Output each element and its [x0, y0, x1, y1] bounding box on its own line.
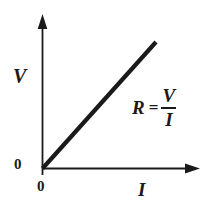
current-axis-arrowhead-icon — [185, 163, 200, 173]
current-axis-label: I — [138, 180, 145, 199]
graph-canvas — [0, 0, 213, 203]
formula-numerator-voltage: V — [162, 86, 177, 106]
ohms-law-figure: V I 0 0 R = V I — [0, 0, 213, 203]
formula-fraction: V I — [161, 86, 176, 130]
resistance-formula: R = V I — [132, 86, 176, 130]
voltage-axis-origin-label: 0 — [14, 157, 22, 172]
formula-equals-sign: = — [149, 98, 159, 118]
voltage-axis-arrowhead-icon — [38, 14, 48, 29]
formula-resistance-symbol: R — [132, 97, 145, 119]
formula-denominator-current: I — [164, 110, 173, 130]
voltage-axis-label: V — [13, 66, 26, 86]
current-axis-origin-label: 0 — [37, 179, 45, 194]
